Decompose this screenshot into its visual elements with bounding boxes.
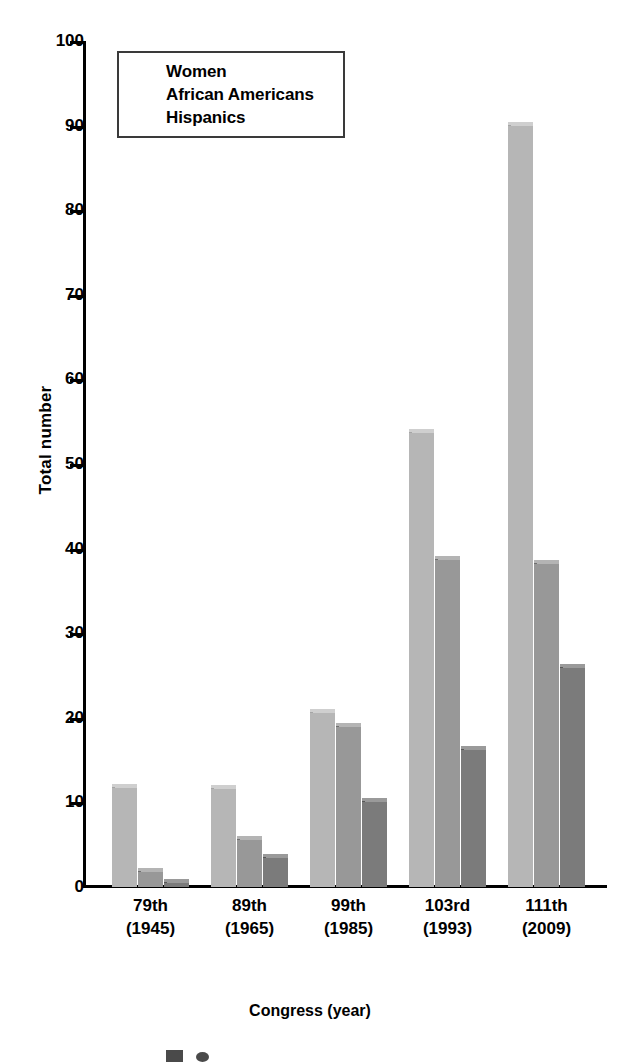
x-axis-label-89th: 89th(1965) — [195, 895, 305, 941]
bar-hispanics-99th — [362, 798, 387, 887]
y-tick-mark — [70, 802, 83, 805]
legend-swatch-women-icon — [126, 64, 157, 79]
y-tick-mark — [70, 549, 83, 552]
bar-women-89th — [211, 785, 236, 887]
legend-label-women: Women — [166, 62, 227, 82]
y-tick-mark — [70, 718, 83, 721]
bar-women-79th — [112, 784, 137, 887]
x-axis-label-year: (1993) — [393, 918, 503, 941]
x-axis-label-year: (2009) — [492, 918, 602, 941]
x-axis-label-congress: 79th — [133, 896, 168, 915]
x-axis-label-congress: 111th — [525, 896, 568, 915]
bar-group-89th — [211, 41, 288, 887]
y-tick-mark — [70, 295, 83, 298]
bar-african-americans-79th — [138, 868, 163, 887]
y-tick-label: 0 — [20, 878, 84, 895]
x-axis-label-103rd: 103rd(1993) — [393, 895, 503, 941]
x-axis-label-99th: 99th(1985) — [294, 895, 404, 941]
y-tick-mark — [70, 126, 83, 129]
bar-hispanics-111th — [560, 664, 585, 887]
y-tick-mark — [70, 464, 83, 467]
bar-group-99th — [310, 41, 387, 887]
bar-african-americans-111th — [534, 560, 559, 887]
x-axis-label-year: (1945) — [96, 918, 206, 941]
y-tick-mark — [70, 633, 83, 636]
bar-hispanics-89th — [263, 854, 288, 887]
legend-item-women: Women — [126, 60, 335, 83]
bar-chart: Total number 1009080706050403020100 79th… — [0, 0, 620, 1062]
x-axis-label-79th: 79th(1945) — [96, 895, 206, 941]
bar-group-103rd — [409, 41, 486, 887]
x-axis-label-congress: 89th — [232, 896, 267, 915]
legend-swatch-african-americans-icon — [126, 87, 157, 102]
x-axis-label-congress: 99th — [331, 896, 366, 915]
bar-hispanics-103rd — [461, 746, 486, 887]
y-tick-mark — [70, 379, 83, 382]
x-axis-label-congress: 103rd — [425, 896, 470, 915]
bar-women-99th — [310, 709, 335, 887]
bar-hispanics-79th — [164, 879, 189, 887]
x-axis-label-111th: 111th(2009) — [492, 895, 602, 941]
legend: Women African Americans Hispanics — [117, 51, 345, 138]
bar-african-americans-103rd — [435, 556, 460, 887]
legend-item-hispanics: Hispanics — [126, 106, 335, 129]
y-tick-mark — [70, 210, 83, 213]
x-axis-label-year: (1965) — [195, 918, 305, 941]
bar-african-americans-99th — [336, 723, 361, 887]
y-tick-mark — [70, 41, 83, 44]
x-axis-title: Congress (year) — [0, 1002, 620, 1020]
x-axis-label-year: (1985) — [294, 918, 404, 941]
scan-artifact — [196, 1052, 209, 1062]
legend-swatch-hispanics-icon — [126, 110, 157, 125]
bar-group-79th — [112, 41, 189, 887]
bar-women-103rd — [409, 429, 434, 887]
bar-african-americans-89th — [237, 836, 262, 887]
legend-item-african-americans: African Americans — [126, 83, 335, 106]
legend-label-african-americans: African Americans — [166, 85, 314, 105]
bar-group-111th — [508, 41, 585, 887]
bar-women-111th — [508, 122, 533, 887]
legend-label-hispanics: Hispanics — [166, 108, 245, 128]
scan-artifact — [166, 1050, 183, 1062]
plot-area — [86, 41, 607, 887]
